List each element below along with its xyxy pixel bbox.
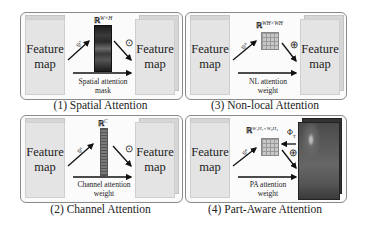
- panel-spatial-attention: Featuremap ℝW×H ψˢ ⊙ Featuremap Spatial …: [20, 12, 183, 100]
- caption-spatial-attention: (1) Spatial Attention: [20, 99, 181, 111]
- caption-channel-attention: (2) Channel Attention: [20, 203, 181, 215]
- panel-part-aware-attention: Featuremap ℝW₁H₁×W₂H₂ ψᵉ ΦT ⊕ PA attenti…: [185, 115, 347, 203]
- arrows: [186, 13, 346, 99]
- arrows: [21, 116, 182, 202]
- panel-channel-attention: Featuremap ℝC ψᶜ ⊙ Featuremap Channel at…: [20, 115, 183, 203]
- arrows: [186, 116, 346, 202]
- caption-part-aware-attention: (4) Part-Aware Attention: [185, 203, 345, 215]
- arrows: [21, 13, 182, 99]
- caption-nonlocal-attention: (3) Non-local Attention: [185, 99, 345, 111]
- panel-nonlocal-attention: Featuremap ℝWH×WH ψⁿ ⊕ Featuremap NL att…: [185, 12, 347, 100]
